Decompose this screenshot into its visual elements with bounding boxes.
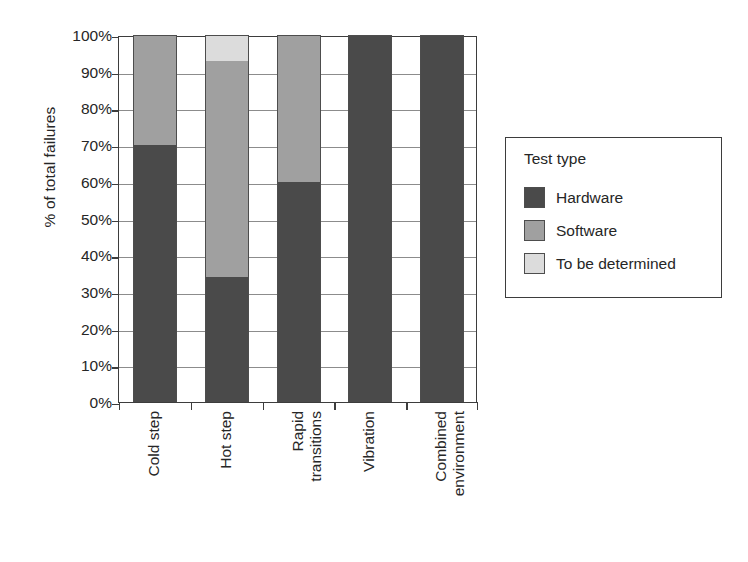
x-axis-tick-mark bbox=[334, 402, 335, 410]
bar-segment[interactable] bbox=[133, 145, 177, 402]
x-axis-tick-label-group: Cold stepHot stepRapid transitionsVibrat… bbox=[118, 411, 477, 561]
legend-swatch-icon bbox=[524, 187, 545, 208]
y-axis-tick-mark bbox=[112, 404, 119, 405]
bar-segment[interactable] bbox=[277, 182, 321, 402]
legend-entry[interactable]: Software bbox=[524, 214, 721, 247]
y-axis-tick-label: 10% bbox=[28, 359, 112, 375]
legend-entry[interactable]: Hardware bbox=[524, 181, 721, 214]
stacked-bar-chart-figure: % of total failures 0%10%20%30%40%50%60%… bbox=[0, 0, 748, 562]
legend-entry-label: Hardware bbox=[556, 189, 623, 207]
legend-entry[interactable]: To be determined bbox=[524, 247, 721, 280]
y-axis-tick-label: 0% bbox=[28, 395, 112, 411]
y-axis-tick-mark bbox=[112, 294, 119, 295]
x-axis-tick-mark bbox=[263, 402, 264, 410]
x-axis-tick-mark bbox=[119, 402, 120, 410]
bar-segment[interactable] bbox=[420, 35, 464, 402]
bar-stack[interactable] bbox=[277, 35, 321, 402]
bar-stack[interactable] bbox=[348, 35, 392, 402]
y-axis-tick-mark bbox=[112, 184, 119, 185]
bar-segment[interactable] bbox=[277, 35, 321, 182]
bar-stack[interactable] bbox=[420, 35, 464, 402]
y-axis-tick-mark bbox=[112, 367, 119, 368]
y-axis-tick-mark bbox=[112, 37, 119, 38]
legend-title: Test type bbox=[524, 150, 721, 168]
y-axis-tick-mark bbox=[112, 331, 119, 332]
y-axis-tick-label: 90% bbox=[28, 65, 112, 81]
y-axis-tick-mark bbox=[112, 147, 119, 148]
y-axis-tick-label: 40% bbox=[28, 248, 112, 264]
y-axis-tick-mark bbox=[112, 257, 119, 258]
y-axis-tick-mark bbox=[112, 221, 119, 222]
y-axis-tick-label: 80% bbox=[28, 102, 112, 118]
y-axis-tick-label: 60% bbox=[28, 175, 112, 191]
y-axis-tick-label: 30% bbox=[28, 285, 112, 301]
y-axis-tick-mark bbox=[112, 110, 119, 111]
x-axis-tick-label: Cold step bbox=[145, 411, 163, 561]
x-axis-tick-label: Hot step bbox=[217, 411, 235, 561]
legend-swatch-icon bbox=[524, 220, 545, 241]
x-axis-tick-mark bbox=[477, 402, 478, 410]
x-axis-tick-label: Combined environment bbox=[432, 411, 468, 561]
y-axis-tick-label: 70% bbox=[28, 138, 112, 154]
bar-stack[interactable] bbox=[205, 35, 249, 402]
legend-entry-label: Software bbox=[556, 222, 617, 240]
bar-segment[interactable] bbox=[348, 35, 392, 402]
y-axis-tick-label-group: 0%10%20%30%40%50%60%70%80%90%100% bbox=[28, 36, 112, 403]
bar-segment[interactable] bbox=[205, 277, 249, 402]
x-axis-tick-mark bbox=[406, 402, 407, 410]
bar-stack[interactable] bbox=[133, 35, 177, 402]
x-axis-tick-label: Rapid transitions bbox=[289, 411, 325, 561]
y-axis-tick-label: 100% bbox=[28, 28, 112, 44]
legend-swatch-icon bbox=[524, 253, 545, 274]
legend-entry-group: HardwareSoftwareTo be determined bbox=[524, 181, 721, 280]
plot-area bbox=[118, 36, 477, 403]
bar-segment[interactable] bbox=[133, 35, 177, 145]
bar-segment[interactable] bbox=[205, 35, 249, 61]
legend-entry-label: To be determined bbox=[556, 255, 676, 273]
chart-legend: Test type HardwareSoftwareTo be determin… bbox=[505, 137, 722, 298]
y-axis-tick-label: 50% bbox=[28, 212, 112, 228]
y-axis-tick-label: 20% bbox=[28, 322, 112, 338]
bar-segment[interactable] bbox=[205, 61, 249, 278]
x-axis-tick-mark bbox=[191, 402, 192, 410]
x-axis-tick-label: Vibration bbox=[360, 411, 378, 561]
y-axis-tick-mark bbox=[112, 74, 119, 75]
